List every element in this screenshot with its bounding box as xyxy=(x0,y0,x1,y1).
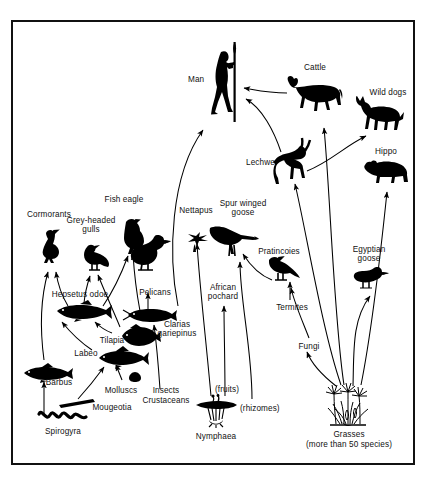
label-clarias-line1: Clarias xyxy=(164,320,190,329)
label-molluscs: Molluscs xyxy=(105,386,138,395)
label-mougeotia: Mougeotia xyxy=(92,403,131,412)
grasses-silhouette xyxy=(322,382,374,428)
edge-grasses-cattle xyxy=(324,128,344,385)
edge-cattle-man xyxy=(244,88,287,93)
molluscs-silhouette xyxy=(128,371,142,383)
label-fish-eagle: Fish eagle xyxy=(105,195,144,204)
label-grey-headed-gulls-line2: gulls xyxy=(82,225,99,234)
label-termites: Termites xyxy=(276,303,308,312)
label-clarias-line2: gariepinus xyxy=(158,329,197,338)
label-african-pochard-line2: pochard xyxy=(208,292,238,301)
labeo-silhouette xyxy=(96,346,150,370)
label-barbus: Barbus xyxy=(46,378,73,387)
edge-barbus-cormorants xyxy=(41,272,48,360)
edge-rhizomes-spurgoose xyxy=(240,262,252,399)
label-fruits: (fruits) xyxy=(215,385,239,394)
edge-fungi-pratincoles xyxy=(291,288,309,338)
edge-fish-man xyxy=(173,130,203,306)
man-silhouette xyxy=(206,42,248,122)
pratincoles-silhouette xyxy=(266,254,302,284)
nymphaea-silhouette xyxy=(192,394,240,428)
cattle-silhouette xyxy=(284,72,344,114)
mougeotia-silhouette xyxy=(58,398,96,408)
edge-grasses-fungi xyxy=(307,352,336,386)
label-spur-winged-goose-line1: Spur winged xyxy=(220,199,267,208)
label-wild-dogs: Wild dogs xyxy=(370,88,407,97)
label-pelicans: Pelicans xyxy=(139,288,171,297)
label-lechwe: Lechwe xyxy=(246,158,275,167)
lechwe-silhouette xyxy=(272,138,318,186)
label-grasses-line1: Grasses xyxy=(333,430,364,439)
label-egyptian-goose-line2: goose xyxy=(358,254,381,263)
edge-labeo-hepsetus xyxy=(62,322,92,350)
label-hippo: Hippo xyxy=(375,147,397,156)
egyptian-goose-silhouette xyxy=(352,264,392,294)
label-cattle: Cattle xyxy=(304,63,326,72)
label-grasses-line2: (more than 50 species) xyxy=(306,440,392,449)
spirogyra-silhouette xyxy=(38,408,90,424)
wild-dogs-silhouette xyxy=(352,92,406,134)
label-cormorants: Cormorants xyxy=(27,210,71,219)
label-tilapia: Tilapia xyxy=(100,336,125,345)
label-spirogyra: Spirogyra xyxy=(45,427,81,436)
label-insects-line1: Insects xyxy=(153,386,180,395)
cormorants-silhouette xyxy=(40,228,68,264)
label-nymphaea: Nymphaea xyxy=(196,432,236,441)
label-spur-winged-goose-line2: goose xyxy=(232,208,255,217)
edge-tilapia-hepsetus xyxy=(95,322,112,333)
label-rhizomes: (rhizomes) xyxy=(240,404,280,413)
spur-winged-goose-silhouette xyxy=(208,222,260,258)
label-hepsetus-odoe: Hepsetus odoe xyxy=(52,290,108,299)
label-egyptian-goose-line1: Egyptian xyxy=(353,245,386,254)
label-african-pochard-line1: African xyxy=(210,283,236,292)
edge-fruits-nettapus xyxy=(197,244,211,396)
hepsetus-odoe-silhouette xyxy=(54,300,114,322)
nettapus-silhouette xyxy=(186,230,210,254)
label-fungi: Fungi xyxy=(299,342,320,351)
edge-mougeotia-labeo xyxy=(78,367,104,399)
edge-grasses-egyptiangoose xyxy=(353,296,370,386)
grey-headed-gulls-silhouette xyxy=(80,242,112,274)
label-insects-line2: Crustaceans xyxy=(142,396,189,405)
label-pratincoles: Pratincoies xyxy=(258,247,300,256)
hippo-silhouette xyxy=(362,156,410,186)
diagram-canvas: Man Cattle Wild dogs Lechwe Hippo Fish e… xyxy=(0,0,426,481)
label-grey-headed-gulls-line1: Grey-headed xyxy=(67,216,116,225)
label-nettapus: Nettapus xyxy=(179,206,213,215)
label-man: Man xyxy=(188,75,204,84)
edge-fruits-africanpochard xyxy=(224,306,225,396)
pelicans-silhouette xyxy=(128,232,172,272)
label-labeo: Labeo xyxy=(74,349,97,358)
